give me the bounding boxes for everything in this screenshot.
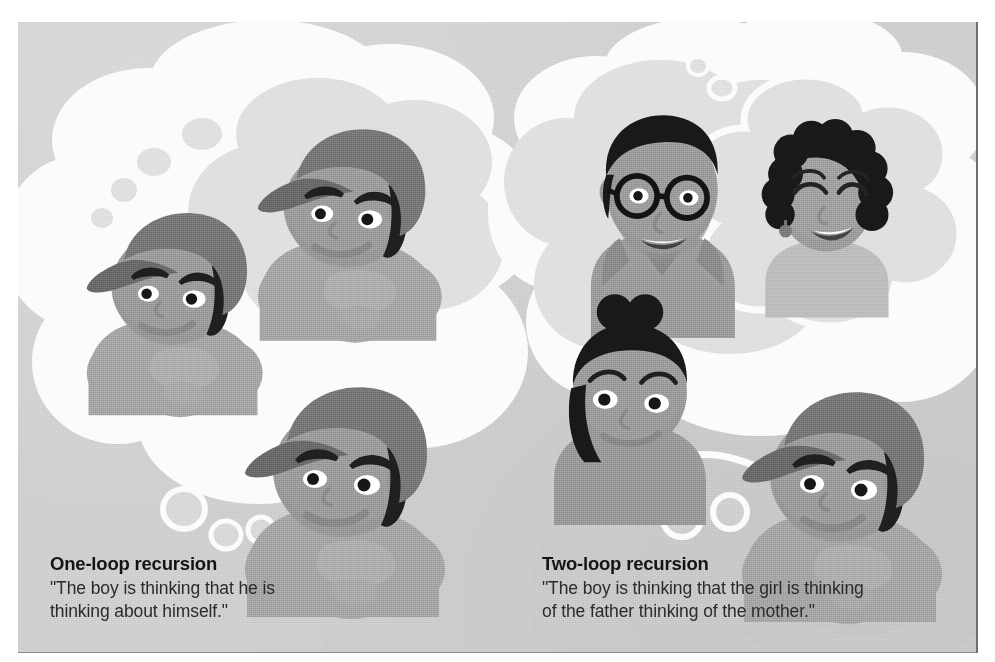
mother-figure: [762, 119, 894, 318]
caption-quote-two-loop: "The boy is thinking that the girl is th…: [542, 577, 972, 622]
two-loop-artwork: [510, 22, 976, 562]
caption-two-loop: Two-loop recursion "The boy is thinking …: [542, 553, 972, 622]
caption-title-one-loop: One-loop recursion: [50, 553, 450, 574]
caption-quote-one-loop: "The boy is thinking that he is thinking…: [50, 577, 450, 622]
screenshot-root: One-loop recursion "The boy is thinking …: [0, 0, 995, 662]
caption-title-two-loop: Two-loop recursion: [542, 553, 972, 574]
illustration-plate: One-loop recursion "The boy is thinking …: [18, 22, 978, 653]
one-loop-artwork: [18, 22, 510, 562]
caption-one-loop: One-loop recursion "The boy is thinking …: [50, 553, 450, 622]
